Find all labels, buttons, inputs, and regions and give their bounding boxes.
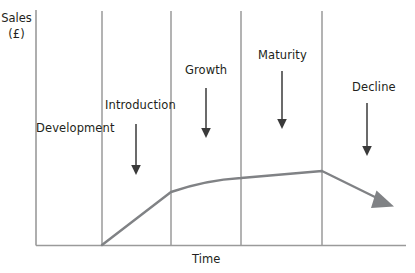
pointer-arrow-introduction — [131, 124, 141, 175]
pointer-arrow-decline — [362, 103, 372, 156]
pointer-arrow-maturity — [277, 71, 287, 129]
stage-label-growth: Growth — [185, 64, 227, 77]
y-axis-label-line2: (£) — [0, 26, 33, 42]
pointer-arrow-growth — [201, 88, 211, 138]
y-axis-label: Sales (£) — [0, 10, 33, 42]
x-axis-label: Time — [192, 253, 221, 266]
product-life-cycle-diagram: Sales (£) Time Development Introduction … — [0, 0, 415, 273]
stage-label-maturity: Maturity — [258, 49, 307, 62]
stage-label-decline: Decline — [352, 81, 396, 94]
stage-label-introduction: Introduction — [105, 99, 176, 112]
stage-label-development: Development — [36, 122, 115, 135]
sales-curve-arrowhead — [371, 191, 394, 209]
y-axis-label-line1: Sales — [0, 10, 33, 26]
diagram-canvas — [0, 0, 415, 273]
